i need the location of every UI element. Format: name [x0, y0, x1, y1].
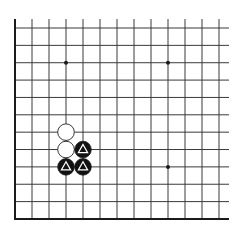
black-stone	[75, 141, 92, 158]
black-stone	[75, 159, 92, 176]
white-stone	[58, 141, 75, 158]
black-stone	[58, 159, 75, 176]
grid-lines	[15, 19, 229, 219]
star-point	[166, 165, 170, 169]
star-point	[166, 61, 170, 65]
go-board	[0, 0, 245, 233]
board-edges	[14, 19, 229, 220]
stones	[58, 124, 92, 175]
white-stone-body	[58, 124, 75, 141]
star-point	[64, 61, 68, 65]
white-stone	[58, 124, 75, 141]
white-stone-body	[58, 141, 75, 158]
